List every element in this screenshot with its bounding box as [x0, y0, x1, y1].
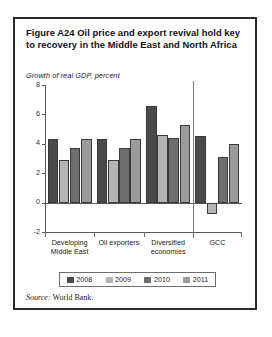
bar [218, 157, 229, 203]
legend-label: 2010 [154, 275, 170, 284]
bar [146, 106, 157, 203]
bar [108, 160, 119, 203]
figure-title: Figure A24 Oil price and export revival … [26, 27, 248, 50]
category-label: Oil exporters [94, 239, 143, 248]
bar [48, 139, 59, 202]
legend-swatch [106, 277, 113, 283]
chart-plot-area: 86420-2 [45, 85, 242, 232]
bar [70, 148, 81, 202]
category-label: GCC [193, 239, 242, 248]
category-label: Developing Middle East [45, 239, 94, 256]
bar [119, 148, 130, 202]
y-tick-label: 0 [24, 197, 40, 206]
chart-legend: 2008200920102011 [59, 272, 216, 287]
y-tick-mark [42, 173, 46, 174]
legend-item-2009[interactable]: 2009 [106, 275, 132, 284]
y-tick-mark [42, 144, 46, 145]
legend-label: 2008 [76, 275, 92, 284]
category-label: Diversified economies [144, 239, 193, 256]
legend-swatch [67, 277, 74, 283]
category-tick [94, 232, 95, 237]
source-note: Source: World Bank. [26, 293, 93, 302]
y-tick-label: 2 [24, 168, 40, 177]
source-label: Source: [26, 293, 51, 302]
y-tick-label: 4 [24, 138, 40, 147]
legend-item-2008[interactable]: 2008 [67, 275, 93, 284]
bar [157, 135, 168, 203]
bar [229, 144, 240, 203]
category-tick [193, 232, 194, 237]
group-divider-line [193, 81, 194, 238]
y-tick-label: -2 [24, 227, 40, 236]
category-tick [144, 232, 145, 237]
axis-note-label: Growth of real GDP, percent [26, 71, 120, 80]
y-tick-label: 6 [24, 109, 40, 118]
legend-swatch [144, 277, 151, 283]
legend-item-2011[interactable]: 2011 [183, 275, 208, 284]
bar [59, 160, 70, 203]
bar [168, 138, 179, 203]
category-tick [241, 232, 242, 237]
bar [207, 203, 218, 215]
figure-frame: Figure A24 Oil price and export revival … [13, 17, 257, 310]
y-tick-label: 8 [24, 80, 40, 89]
bar [130, 139, 141, 203]
category-tick [45, 232, 46, 237]
bar [97, 139, 108, 202]
bar [180, 125, 191, 203]
legend-swatch [183, 277, 190, 283]
source-value: World Bank. [53, 293, 94, 302]
legend-item-2010[interactable]: 2010 [144, 275, 170, 284]
legend-label: 2011 [193, 275, 208, 284]
category-labels: Developing Middle EastOil exportersDiver… [45, 237, 242, 261]
legend-label: 2009 [115, 275, 131, 284]
bar [195, 136, 206, 202]
y-axis-line [45, 85, 46, 232]
y-tick-mark [42, 114, 46, 115]
y-tick-mark [42, 85, 46, 86]
bar [81, 139, 92, 203]
